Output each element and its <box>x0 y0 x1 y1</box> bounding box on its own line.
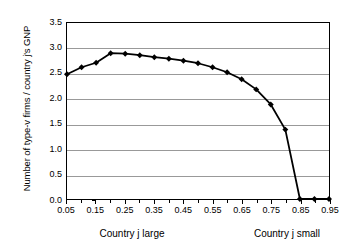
data-point-marker <box>137 52 143 58</box>
x-tick-mark <box>154 200 155 204</box>
x-tick-label: 0.95 <box>313 205 347 215</box>
data-point-marker <box>195 60 201 66</box>
x-tick-mark-minor <box>315 200 316 203</box>
data-point-marker <box>79 64 85 70</box>
data-point-marker <box>166 56 172 62</box>
x-tick-mark <box>213 200 214 204</box>
x-tick-mark-minor <box>169 200 170 203</box>
x-tick-mark-minor <box>81 200 82 203</box>
y-tick-label: 3.0 <box>32 43 62 52</box>
x-tick-mark <box>330 200 331 204</box>
x-tick-mark <box>125 200 126 204</box>
x-tick-mark-minor <box>198 200 199 203</box>
data-point-marker <box>151 54 157 60</box>
x-tick-mark-minor <box>110 200 111 203</box>
x-tick-mark <box>66 200 67 204</box>
y-tick-label: 1.5 <box>32 119 62 128</box>
y-tick-label: 0.0 <box>32 196 62 205</box>
data-point-marker <box>122 51 128 57</box>
x-tick-mark <box>271 200 272 204</box>
y-tick-label: 2.0 <box>32 94 62 103</box>
data-point-marker <box>224 69 230 75</box>
y-tick-label: 0.5 <box>32 170 62 179</box>
data-point-marker <box>180 58 186 64</box>
chart-figure: Number of type-v firms / country j's GNP… <box>0 0 354 252</box>
y-axis-ticks: 0.00.51.01.52.02.53.03.5 <box>30 22 62 200</box>
x-tick-mark-minor <box>139 200 140 203</box>
x-tick-mark <box>95 200 96 204</box>
x-axis-ticks: 0.050.150.250.350.450.550.650.750.850.95 <box>66 200 330 222</box>
x-tick-mark-minor <box>257 200 258 203</box>
data-series-line <box>67 23 329 199</box>
x-tick-mark-minor <box>286 200 287 203</box>
data-point-marker <box>210 64 216 70</box>
x-tick-mark <box>242 200 243 204</box>
plot-area <box>66 22 330 200</box>
y-tick-label: 3.5 <box>32 18 62 27</box>
series-line <box>67 53 329 199</box>
x-tick-mark <box>183 200 184 204</box>
x-tick-mark-minor <box>227 200 228 203</box>
y-tick-label: 1.0 <box>32 145 62 154</box>
x-axis-label-right: Country j small <box>222 228 352 239</box>
x-axis-label-left: Country j large <box>52 228 212 239</box>
x-tick-mark <box>301 200 302 204</box>
y-tick-label: 2.5 <box>32 68 62 77</box>
data-point-marker <box>64 71 70 77</box>
